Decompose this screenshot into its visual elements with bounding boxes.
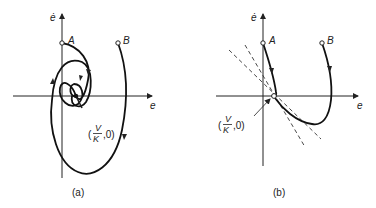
trajectory-b (275, 43, 331, 124)
y-axis-label: ė (50, 12, 56, 23)
arrow-icon (122, 134, 127, 140)
panel-a: ė e A B ( V K ,0) (a) (13, 12, 156, 198)
equilibrium-point (74, 94, 78, 98)
equilibrium-label: ( V K ,0) (88, 123, 115, 144)
caption-b: (b) (273, 187, 285, 198)
figure-canvas: ė e A B ( V K ,0) (a) ė e (0, 0, 376, 208)
x-axis-label: e (150, 100, 156, 111)
trajectory-a (263, 43, 276, 96)
arrow-icon (79, 75, 83, 81)
point-a-marker (261, 41, 265, 45)
point-b-marker (320, 41, 324, 45)
svg-text:V: V (225, 114, 232, 124)
svg-text:K: K (93, 134, 100, 144)
equilibrium-pointer (254, 99, 270, 116)
equilibrium-label: ( V K ,0) (218, 114, 245, 135)
x-axis-label: e (357, 100, 363, 111)
point-b-label: B (327, 35, 334, 46)
svg-text:,0): ,0) (103, 129, 115, 140)
equilibrium-point (272, 94, 277, 99)
svg-text:K: K (223, 125, 230, 135)
point-a-label: A (268, 35, 276, 46)
svg-text:(: ( (218, 120, 222, 131)
point-b-label: B (123, 35, 130, 46)
svg-text:V: V (95, 123, 102, 133)
svg-text:(: ( (88, 129, 92, 140)
point-a-marker (60, 41, 64, 45)
svg-text:,0): ,0) (233, 120, 245, 131)
point-a-label: A (67, 35, 75, 46)
panel-b: ė e A B ( V K ,0) (b) (216, 12, 363, 198)
point-b-marker (116, 41, 120, 45)
y-axis-label: ė (251, 12, 257, 23)
caption-a: (a) (72, 187, 84, 198)
